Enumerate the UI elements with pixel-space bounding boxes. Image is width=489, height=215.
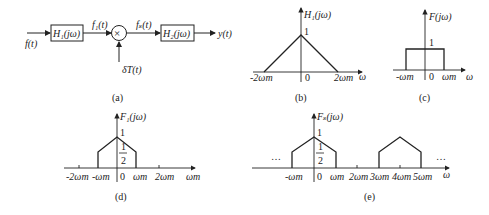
fs-tick: 2ωm xyxy=(349,171,368,182)
fs-dots-right: … xyxy=(436,151,446,162)
f-plot: F(jω) 1 -ωm 0 ωm ω (c) xyxy=(393,10,473,104)
multiply-icon: × xyxy=(114,27,120,39)
f1-plot: F₁(jω) 1 1 2 -2ωm -ωm 0 ωm 2ωm ωm (d) xyxy=(64,111,200,203)
sampler-label: δT(t) xyxy=(122,64,142,76)
caption-a: (a) xyxy=(112,92,123,104)
h1-axis-label: ω xyxy=(359,71,366,82)
h1-block-label: H₁(jω) xyxy=(52,28,81,40)
caption-b: (b) xyxy=(295,92,307,104)
f-title: F(jω) xyxy=(428,11,452,23)
input-label: f(t) xyxy=(25,38,38,50)
caption-c: (c) xyxy=(419,92,430,104)
fs-tick: 3ωm xyxy=(369,171,389,182)
h1-tick: 2ωm xyxy=(334,72,353,83)
f1-axis-label: ωm xyxy=(186,171,200,182)
h1-title: H₁(jω) xyxy=(303,9,332,21)
fs-tick: -ωm xyxy=(285,171,303,182)
f1-peak-label: 1 xyxy=(120,127,125,138)
f1-tick: -ωm xyxy=(92,171,110,182)
h1-peak-label: 1 xyxy=(304,26,309,37)
fs-tick: 5ωm xyxy=(413,171,432,182)
fs-half-den: 2 xyxy=(318,155,323,166)
fs-label: fₛ(t) xyxy=(136,19,152,31)
block-diagram: f(t) H₁(jω) f₁(t) × δT(t) fₛ(t) H₂(jω) y… xyxy=(25,19,233,104)
fs-peak-label: 1 xyxy=(317,127,322,138)
h2-block-label: H₂(jω) xyxy=(162,28,191,40)
fs-tick: 4ωm xyxy=(392,171,411,182)
f1-tick: 0 xyxy=(120,171,125,182)
f1-tick: -2ωm xyxy=(66,171,89,182)
f-tick: 0 xyxy=(429,71,434,82)
caption-d: (d) xyxy=(115,191,127,203)
f-peak-label: 1 xyxy=(429,37,434,48)
fs-axis-label: ω xyxy=(443,169,450,180)
h1-tick: -2ωm xyxy=(250,72,273,83)
fs-title: Fₛ(jω) xyxy=(316,111,344,123)
fs-dots-left: … xyxy=(271,151,281,162)
f-tick: ωm xyxy=(442,71,456,82)
f-axis-label: ω xyxy=(466,71,473,82)
f1-half-den: 2 xyxy=(121,155,126,166)
f-tick: -ωm xyxy=(396,71,414,82)
fs-plot: Fₛ(jω) 1 1 2 … … -ωm 0 ωm 2ωm 3ωm 4ωm 5ω… xyxy=(252,111,450,203)
f1-title: F₁(jω) xyxy=(119,111,147,123)
f1-tick: 2ωm xyxy=(155,171,174,182)
fs-tick: ωm xyxy=(330,171,344,182)
h1-tick: 0 xyxy=(305,72,310,83)
f1-tick: ωm xyxy=(133,171,147,182)
output-label: y(t) xyxy=(217,28,233,40)
fs-tick: 0 xyxy=(317,171,322,182)
f1-label: f₁(t) xyxy=(92,19,108,31)
caption-e: (e) xyxy=(364,191,375,203)
h1-plot: H₁(jω) 1 -2ωm 0 2ωm ω (b) xyxy=(250,8,366,104)
